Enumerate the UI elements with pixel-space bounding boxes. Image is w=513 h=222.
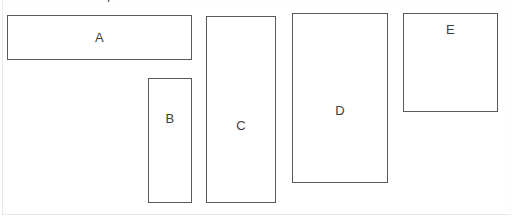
rectangle-e-label: E (446, 23, 455, 36)
rectangle-b[interactable]: B (148, 78, 192, 203)
rectangle-d[interactable]: D (292, 13, 388, 183)
rectangle-b-label: B (166, 112, 175, 125)
diagram-canvas: 4 A B C D E (0, 0, 513, 222)
rectangle-c-label: C (236, 119, 246, 132)
rectangle-d-label: D (335, 104, 345, 117)
clipped-top-glyph: 4 (100, 0, 114, 5)
rectangle-a-label: A (95, 31, 104, 44)
rectangle-a[interactable]: A (7, 15, 192, 60)
rectangle-e[interactable]: E (403, 13, 498, 112)
rectangle-c[interactable]: C (206, 16, 276, 203)
